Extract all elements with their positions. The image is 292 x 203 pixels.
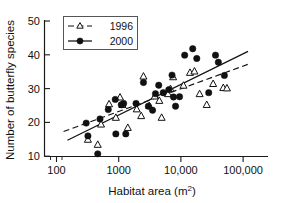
legend-label-1996: 1996 [110,20,134,32]
data-point-filled-circle [149,107,155,113]
data-point-filled-circle [97,116,103,122]
data-point-filled-circle [166,86,172,92]
data-point-filled-circle [85,133,91,139]
x-tick-label-100000: 100,000 [223,164,263,176]
data-point-open-triangle [140,73,147,79]
data-point-open-triangle [124,124,131,130]
data-point-open-triangle [196,90,203,96]
data-point-filled-circle [152,90,158,96]
data-point-filled-circle [215,59,221,65]
data-point-open-triangle [158,114,165,120]
y-axis-ticks: 50 40 30 20 10 [28,15,50,162]
data-point-filled-circle [172,103,178,109]
chart-svg: 50 40 30 20 10 100 1000 10,000 100,000 [0,0,292,203]
data-point-open-triangle [191,68,198,74]
x-tick-label-10000: 10,000 [164,164,198,176]
data-point-filled-circle [206,89,212,95]
x-axis-title-base: Habitat area (m [108,185,187,197]
x-axis-title: Habitat area (m2) [108,184,196,197]
data-point-filled-circle [120,100,126,106]
legend-label-2000: 2000 [110,35,134,47]
data-point-filled-circle [212,52,218,58]
data-point-open-triangle [94,141,101,147]
x-axis-ticks: 100 1000 10,000 100,000 [47,157,263,177]
data-point-filled-circle [181,52,187,58]
y-axis-title: Number of butterfly species [4,20,16,160]
data-point-filled-circle [133,100,139,106]
data-point-filled-circle [169,72,175,78]
data-point-open-triangle [210,80,217,86]
data-point-filled-circle [156,82,162,88]
data-point-filled-circle [123,131,129,137]
data-point-filled-circle [221,72,227,78]
y-tick-label-10: 10 [28,150,40,162]
data-point-filled-circle [170,94,176,100]
data-point-filled-circle [112,96,118,102]
data-point-filled-circle [113,131,119,137]
y-tick-label-20: 20 [28,116,40,128]
butterfly-species-habitat-area-chart: 50 40 30 20 10 100 1000 10,000 100,000 [0,0,292,203]
data-point-open-triangle [106,100,113,106]
x-tick-label-1000: 1000 [106,164,130,176]
data-point-filled-circle [190,46,196,52]
data-point-open-triangle [203,101,210,107]
data-point-filled-circle [194,55,200,61]
x-axis-title-tail: ) [192,185,196,197]
y-tick-label-50: 50 [28,15,40,27]
x-tick-label-100: 100 [47,164,65,176]
data-point-filled-circle [140,79,146,85]
legend: 1996 2000 [64,17,138,50]
data-point-filled-circle [95,151,101,157]
y-tick-label-30: 30 [28,83,40,95]
y-tick-label-40: 40 [28,49,40,61]
data-point-open-triangle [138,112,145,118]
data-point-filled-circle [83,120,89,126]
data-points-2000 [83,46,228,158]
legend-marker-filled-circle-icon [77,38,83,44]
data-point-filled-circle [160,89,166,95]
data-point-filled-circle [105,106,111,112]
data-point-filled-circle [176,94,182,100]
